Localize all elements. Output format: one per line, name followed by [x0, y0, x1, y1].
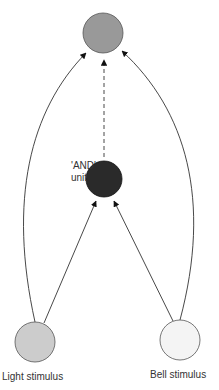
bell-stimulus-label: Bell stimulus: [150, 369, 206, 381]
edge-light-to-output: [24, 53, 86, 322]
output-node: [83, 13, 123, 53]
edge-bell-to-and: [114, 201, 173, 321]
and-unit-label-line1: 'AND': [71, 160, 96, 172]
light-stimulus-label: Light stimulus: [2, 371, 63, 383]
bell-stimulus-node: [160, 320, 200, 360]
and-unit-label-line2: unit: [71, 172, 87, 184]
light-stimulus-node: [15, 322, 55, 362]
diagram-canvas: [0, 0, 219, 390]
edge-light-to-and: [44, 201, 96, 323]
edge-bell-to-output: [122, 51, 194, 320]
